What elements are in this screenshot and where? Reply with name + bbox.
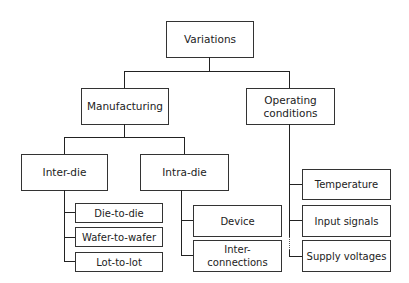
node-temperature: Temperature <box>302 169 391 200</box>
connector <box>209 57 210 71</box>
node-device: Device <box>193 205 282 237</box>
connector <box>124 71 125 88</box>
node-label: Operating conditions <box>257 94 324 120</box>
node-label: Supply voltages <box>307 250 387 263</box>
node-interconnections: Inter- connections <box>193 240 282 272</box>
node-label: Wafer-to-wafer <box>82 231 156 244</box>
node-manufacturing: Manufacturing <box>81 88 169 125</box>
node-label: Input signals <box>315 215 379 228</box>
node-variations: Variations <box>166 21 254 58</box>
connector <box>64 137 65 154</box>
node-label: Die-to-die <box>94 207 143 220</box>
node-label: Inter- connections <box>207 243 267 269</box>
connector <box>289 184 303 185</box>
node-label: Device <box>220 215 254 228</box>
node-intra-die: Intra-die <box>140 154 229 191</box>
connector <box>181 190 182 256</box>
node-label: Manufacturing <box>87 100 163 113</box>
node-label: Lot-to-lot <box>96 256 142 269</box>
connector <box>124 124 125 137</box>
node-label: Inter-die <box>43 166 87 179</box>
node-label: Intra-die <box>162 166 206 179</box>
connector <box>289 220 303 221</box>
node-supply-voltages: Supply voltages <box>302 240 391 272</box>
connector <box>289 71 290 88</box>
connector <box>124 71 290 72</box>
connector <box>184 137 185 154</box>
node-lot-to-lot: Lot-to-lot <box>75 252 163 272</box>
node-operating-conditions: Operating conditions <box>246 88 335 125</box>
node-label: Temperature <box>315 178 378 191</box>
dotted-connector <box>289 237 291 250</box>
connector <box>289 256 303 257</box>
node-wafer-to-wafer: Wafer-to-wafer <box>75 227 163 247</box>
node-die-to-die: Die-to-die <box>75 203 163 223</box>
node-input-signals: Input signals <box>302 205 391 237</box>
connector <box>64 190 65 262</box>
connector <box>64 137 185 138</box>
node-inter-die: Inter-die <box>21 154 108 191</box>
node-label: Variations <box>184 33 236 46</box>
